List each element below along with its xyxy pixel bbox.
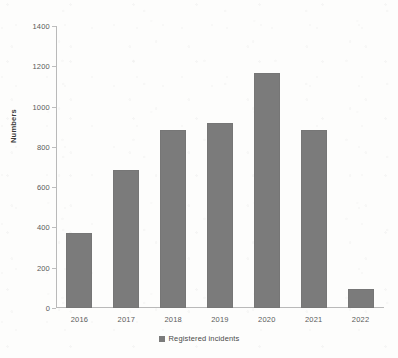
bar-group: 2016 (56, 26, 103, 308)
legend-swatch-icon (159, 336, 165, 342)
bar[interactable] (207, 123, 233, 308)
x-axis-tick-label: 2019 (211, 315, 229, 324)
x-axis-tick-label: 2022 (352, 315, 370, 324)
bar[interactable] (348, 289, 374, 308)
bar-group: 2021 (290, 26, 337, 308)
y-axis-tick-label: 600 (37, 183, 50, 192)
bar-group: 2019 (197, 26, 244, 308)
bar[interactable] (254, 73, 280, 308)
x-axis-tick-label: 2018 (164, 315, 182, 324)
y-axis-tick-label: 800 (37, 142, 50, 151)
y-axis-tick-label: 1400 (33, 22, 51, 31)
y-axis-tick-label: 1200 (33, 62, 51, 71)
y-axis-tick-label: 1000 (33, 102, 51, 111)
x-axis-tick-label: 2017 (118, 315, 136, 324)
bar-group: 2017 (103, 26, 150, 308)
chart-figure: Numbers 1400120010008006004002000 201620… (0, 0, 398, 358)
y-axis-tick-label: 200 (37, 263, 50, 272)
bar-group: 2022 (337, 26, 384, 308)
bar[interactable] (160, 130, 186, 308)
bar[interactable] (66, 233, 92, 308)
y-axis-tick-mark (52, 308, 56, 309)
y-axis-title: Numbers (9, 109, 18, 143)
bar[interactable] (301, 130, 327, 308)
bar-group: 2020 (243, 26, 290, 308)
bar-series-registered-incidents: 2016201720182019202020212022 (56, 26, 384, 308)
x-axis-tick-label: 2021 (305, 315, 323, 324)
bar-group: 2018 (150, 26, 197, 308)
y-axis-tick-label: 400 (37, 223, 50, 232)
y-axis-tick-label: 0 (46, 304, 50, 313)
legend-label: Registered incidents (169, 334, 240, 343)
chart-legend: Registered incidents (0, 334, 398, 343)
plot-area: 1400120010008006004002000 20162017201820… (56, 26, 384, 308)
x-axis-tick-label: 2016 (71, 315, 89, 324)
x-axis-tick-label: 2020 (258, 315, 276, 324)
bar[interactable] (113, 170, 139, 308)
